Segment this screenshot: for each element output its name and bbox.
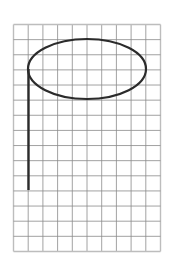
grid-lines — [14, 25, 161, 252]
grid-diagram — [0, 0, 170, 268]
